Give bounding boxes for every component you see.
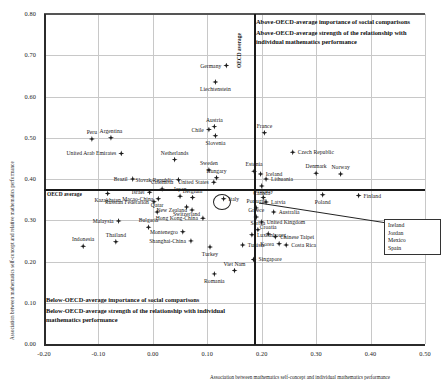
data-point-label: Chile (192, 127, 204, 133)
x-axis-tick-label: -0.10 (78, 350, 118, 357)
x-axis-tick-label: 0.20 (242, 350, 282, 357)
data-point-label: Denmark (306, 163, 327, 169)
data-point-label: Greece (248, 207, 264, 213)
y-axis-tick-label: 0.60 (2, 93, 36, 100)
y-axis-tick-label: 0.70 (2, 51, 36, 58)
x-axis-tick-label: 0.40 (351, 350, 391, 357)
data-point-label: Bulgaria (139, 217, 159, 223)
y-axis-tick-label: 0.20 (2, 258, 36, 265)
legend-item: Ireland (388, 222, 437, 230)
x-axis-tick-label: -0.20 (24, 350, 64, 357)
data-point-label: France (257, 123, 273, 129)
plot-top-border (44, 13, 425, 15)
data-point-label: Sweden (200, 160, 218, 166)
legend-item: Mexico (388, 237, 437, 245)
data-point-label: Norway (331, 164, 349, 170)
x-axis-tick-label: 0.00 (133, 350, 173, 357)
data-point-label: Shanghai-China (149, 238, 186, 244)
oecd-average-vertical-label: OECD average (236, 33, 242, 68)
annotation-bottom-line-1: Below-OECD-average importance of social … (46, 296, 228, 304)
data-point-label: United States (178, 179, 209, 185)
data-point-label: Russian Federation (105, 199, 149, 205)
x-axis-tick-label: 0.10 (187, 350, 227, 357)
y-axis-tick-label: 0.10 (2, 299, 36, 306)
data-point-label: Czech Republic (298, 149, 334, 155)
gridline-vertical (262, 14, 263, 344)
y-axis-tick-label: 0.50 (2, 134, 36, 141)
y-axis-tick-label: 0.30 (2, 216, 36, 223)
data-point-label: Germany (200, 63, 221, 69)
data-point-label: Latvia (271, 199, 286, 205)
data-point-label: Peru (87, 129, 97, 135)
y-axis-tick-label: 0.80 (2, 10, 36, 17)
data-point-label: United Arab Emirates (67, 150, 117, 156)
annotation-below-oecd-average: Below-OECD-average importance of social … (46, 296, 228, 327)
data-point-label: Poland (315, 199, 331, 205)
data-point-label: Portugal (247, 198, 266, 204)
data-point-label: Romania (204, 278, 225, 284)
data-point-label: Brazil (114, 176, 128, 182)
x-axis-tick-label: 0.50 (405, 350, 445, 357)
data-point-label: Liechtenstein (200, 86, 231, 92)
annotation-top-line-1: Above-OECD-average importance of social … (256, 18, 431, 26)
legend-item: Spain (388, 245, 437, 253)
gridline-horizontal (44, 138, 425, 139)
data-point-label: Turkey (202, 251, 218, 257)
gridline-horizontal (44, 55, 425, 56)
overlapping-countries-legend: IrelandJordanMexicoSpain (384, 219, 441, 255)
annotation-top-line-2: Above-OECD-average strength of the relat… (256, 29, 431, 46)
data-point-label: Netherlands (161, 150, 189, 156)
x-axis-tick-label: 0.30 (296, 350, 336, 357)
data-point-label: Qatar (151, 202, 164, 208)
data-point-label: Thailand (106, 232, 126, 238)
x-axis-title: Association between mathematics self-con… (210, 374, 390, 380)
data-point-label: Costa Rica (291, 242, 316, 248)
data-point-label: Slovenia (205, 140, 225, 146)
gridline-horizontal (44, 179, 425, 180)
data-point-label: Uruguay (253, 188, 273, 194)
data-point-label: Argentina (100, 128, 123, 134)
data-point-label: Belgium (183, 188, 203, 194)
data-point-label: Lithuania (271, 176, 293, 182)
legend-item: Jordan (388, 230, 437, 238)
oecd-average-horizontal-line (44, 189, 425, 191)
data-point-label: Viet Nam (224, 261, 246, 267)
data-point-label: Hungary (207, 168, 227, 174)
data-point-label: Italy (229, 196, 240, 202)
gridline-vertical (98, 14, 99, 344)
y-axis-tick-label: 0.00 (2, 340, 36, 347)
annotation-bottom-line-2: Below-OECD-average strength of the relat… (46, 307, 228, 324)
data-point-label: Chinese Taipei (280, 234, 314, 240)
data-point-label: Indonesia (72, 236, 94, 242)
data-point-label: Israel (132, 189, 145, 195)
data-point-label: Estonia (246, 161, 263, 167)
oecd-average-horizontal-label: OECD average (47, 191, 82, 197)
gridline-vertical (425, 14, 426, 344)
oecd-average-vertical-line (254, 14, 256, 345)
data-point-label: Hong Kong-China (156, 215, 198, 221)
data-point-label: Australia (279, 209, 300, 215)
y-axis-tick-label: 0.40 (2, 175, 36, 182)
x-axis-line (44, 344, 425, 346)
gridline-vertical (371, 14, 372, 344)
data-point-label: Finland (364, 193, 381, 199)
data-point-label: Colombia (151, 179, 173, 185)
plot-area (44, 14, 425, 344)
data-point-label: Malaysia (93, 218, 114, 224)
data-point-label: Austria (206, 117, 223, 123)
gridline-horizontal (44, 97, 425, 98)
annotation-above-oecd-average: Above-OECD-average importance of social … (256, 18, 431, 49)
gridline-vertical (316, 14, 317, 344)
data-point-label: Croatia (260, 224, 277, 230)
data-point-label: Singapore (259, 256, 282, 262)
data-point-label: Tunisia (248, 242, 265, 248)
data-point-label: Montenegro (150, 229, 178, 235)
